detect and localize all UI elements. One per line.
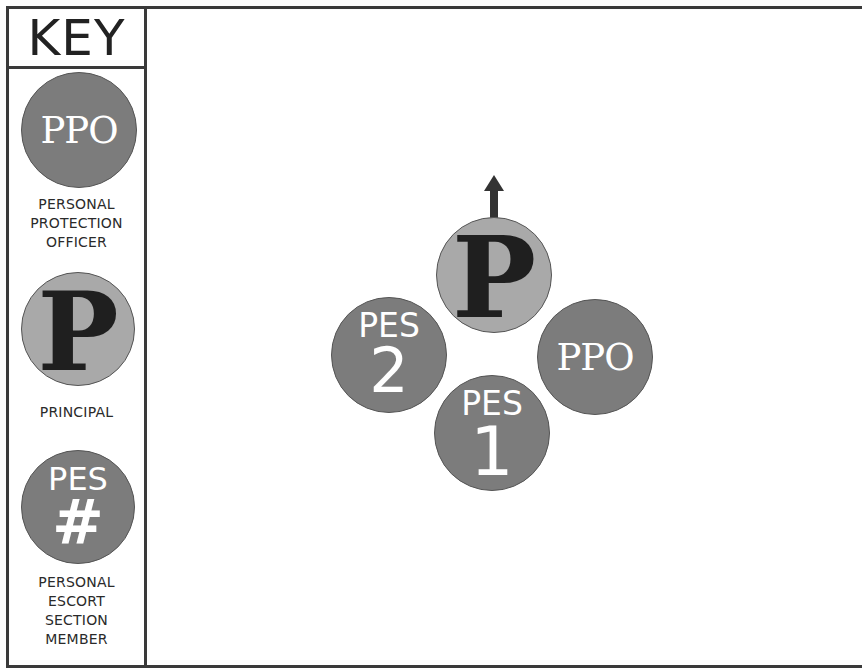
key-legend: KEY PPO PERSONAL PROTECTION OFFICER P PR… bbox=[6, 6, 147, 668]
key-ppo-label: PPO bbox=[40, 112, 117, 149]
formation-pes-1-number: 1 bbox=[470, 420, 513, 485]
key-ppo-symbol: PPO bbox=[21, 72, 137, 188]
formation-pes-2: PES 2 bbox=[331, 297, 447, 413]
formation-ppo-label: PPO bbox=[556, 339, 633, 376]
formation-pes-1: PES 1 bbox=[434, 375, 550, 491]
key-ppo-caption: PERSONAL PROTECTION OFFICER bbox=[9, 195, 144, 252]
key-principal-label: P bbox=[37, 278, 118, 386]
formation-principal: P bbox=[436, 217, 552, 333]
formation-ppo: PPO bbox=[537, 299, 653, 415]
key-pes-caption: PERSONAL ESCORT SECTION MEMBER bbox=[9, 573, 144, 649]
key-pes-hash: # bbox=[52, 495, 104, 551]
key-principal-symbol: P bbox=[21, 272, 135, 386]
formation-pes-2-number: 2 bbox=[369, 342, 408, 401]
formation-principal-label: P bbox=[452, 222, 536, 334]
key-title: KEY bbox=[9, 9, 144, 69]
key-principal-caption: PRINCIPAL bbox=[9, 403, 144, 422]
key-pes-symbol: PES # bbox=[21, 450, 135, 564]
